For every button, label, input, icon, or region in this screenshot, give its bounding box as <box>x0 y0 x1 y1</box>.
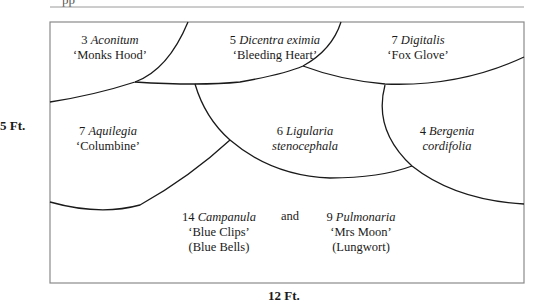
plant-count: 7 <box>391 33 397 47</box>
width-dimension-label: 12 Ft. <box>268 288 300 304</box>
plant-latin-name: Campanula <box>198 210 256 224</box>
plant-latin-name: Bergenia <box>429 124 474 138</box>
plant-species-name: stenocephala <box>272 139 338 154</box>
plant-count: 14 <box>182 210 195 224</box>
plant-common-name: ‘Columbine’ <box>76 139 140 154</box>
plant-label-aquilegia: 7 Aquilegia ‘Columbine’ <box>76 124 140 154</box>
plant-count: 5 <box>230 33 236 47</box>
plant-count: 9 <box>326 210 332 224</box>
plant-count: 4 <box>420 124 426 138</box>
plant-latin-name: Digitalis <box>401 33 445 47</box>
connector-and: and <box>281 209 299 224</box>
plant-common-name: ‘Mrs Moon’ <box>326 225 395 240</box>
plant-latin-name: Pulmonaria <box>336 210 396 224</box>
plant-latin-name: Ligularia <box>286 124 333 138</box>
plant-alt-name: (Lungwort) <box>326 240 395 255</box>
plant-label-campanula: 14 Campanula ‘Blue Clips’ (Blue Bells) <box>182 210 256 255</box>
plant-species-name: cordifolia <box>420 139 475 154</box>
plant-count: 7 <box>79 124 85 138</box>
plant-count: 3 <box>81 33 87 47</box>
plant-common-name: ‘Monks Hood’ <box>73 48 147 63</box>
plant-latin-name: Aquilegia <box>88 124 137 138</box>
plant-count: 6 <box>277 124 283 138</box>
plant-label-pulmonaria: 9 Pulmonaria ‘Mrs Moon’ (Lungwort) <box>326 210 395 255</box>
plant-label-bergenia: 4 Bergenia cordifolia <box>420 124 475 154</box>
plant-alt-name: (Blue Bells) <box>182 240 256 255</box>
plant-latin-name: Aconitum <box>91 33 139 47</box>
plant-common-name: ‘Fox Glove’ <box>387 48 448 63</box>
plant-latin-name: Dicentra eximia <box>239 33 320 47</box>
plant-common-name: ‘Blue Clips’ <box>182 225 256 240</box>
plant-label-digitalis: 7 Digitalis ‘Fox Glove’ <box>387 33 448 63</box>
plant-common-name: ‘Bleeding Heart’ <box>230 48 320 63</box>
height-dimension-label: 5 Ft. <box>0 118 25 134</box>
plant-label-aconitum: 3 Aconitum ‘Monks Hood’ <box>73 33 147 63</box>
plant-label-dicentra: 5 Dicentra eximia ‘Bleeding Heart’ <box>230 33 320 63</box>
plant-label-ligularia: 6 Ligularia stenocephala <box>272 124 338 154</box>
